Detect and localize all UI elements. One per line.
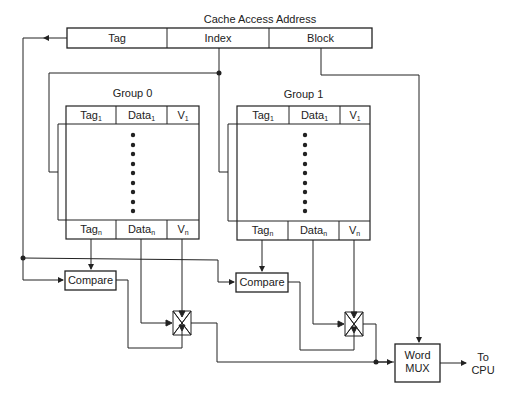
address-field-tag: Tag (67, 33, 167, 44)
group1-tagn: Tagn (237, 225, 288, 237)
compare-label-1: Compare (236, 277, 288, 288)
address-field-block: Block (269, 33, 372, 44)
group0-v1: V1 (167, 110, 199, 122)
group0-label: Group 0 (66, 88, 199, 99)
group0-vn: Vn (167, 224, 199, 236)
word-mux-label-line1: Word (395, 350, 440, 361)
ellipsis-dots-group1 (303, 133, 307, 213)
cache-diagram-wires (0, 0, 514, 398)
group1-tag1: Tag1 (237, 110, 289, 122)
group1-label: Group 1 (237, 89, 370, 100)
output-label-line2: CPU (468, 365, 498, 376)
group1-data1: Data1 (289, 110, 340, 122)
group0-tagn: Tagn (66, 224, 116, 236)
word-mux-label-line2: MUX (395, 363, 440, 374)
group0-tag1: Tag1 (66, 110, 116, 122)
group1-vn: Vn (339, 225, 370, 237)
group0-datan: Datan (116, 224, 167, 236)
compare-label-0: Compare (65, 275, 116, 286)
ellipsis-dots-group0 (131, 133, 135, 213)
diagram-title: Cache Access Address (160, 14, 360, 25)
output-label-line1: To (468, 352, 498, 363)
group1-v1: V1 (340, 110, 370, 122)
address-field-index: Index (167, 33, 269, 44)
group0-data1: Data1 (116, 110, 167, 122)
group1-datan: Datan (288, 225, 339, 237)
